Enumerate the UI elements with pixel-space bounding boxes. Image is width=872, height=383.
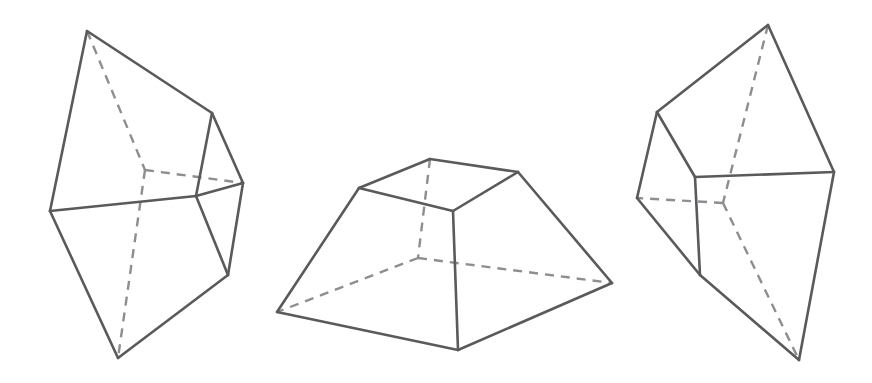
hidden-edge bbox=[277, 258, 418, 312]
solid-edge bbox=[196, 113, 212, 196]
solid-edge bbox=[453, 172, 518, 211]
hidden-edge bbox=[723, 203, 799, 360]
solid-edge bbox=[768, 25, 834, 172]
figure-left-polyhedron bbox=[50, 31, 243, 358]
solid-edge bbox=[430, 159, 518, 172]
solid-edge bbox=[700, 275, 799, 360]
hidden-edge bbox=[87, 31, 145, 170]
solid-edge bbox=[87, 31, 212, 113]
solid-edge bbox=[212, 113, 243, 183]
solid-edge bbox=[50, 211, 118, 358]
solid-edge bbox=[118, 275, 228, 358]
solid-edge bbox=[196, 196, 228, 275]
hidden-edge bbox=[145, 170, 243, 183]
drawing-canvas bbox=[0, 0, 872, 383]
solid-edge bbox=[277, 312, 458, 350]
solid-edge bbox=[518, 172, 612, 283]
hidden-edge bbox=[118, 170, 145, 358]
figure-left-polyhedron-hidden-edges bbox=[87, 31, 243, 358]
solid-edge bbox=[637, 198, 700, 275]
figure-right-polyhedron-solid-edges bbox=[637, 25, 834, 360]
figure-right-polyhedron-hidden-edges bbox=[637, 25, 799, 360]
solid-edge bbox=[50, 196, 196, 211]
solid-edge bbox=[50, 31, 87, 211]
figure-middle-polyhedron-solid-edges bbox=[277, 159, 612, 350]
figure-left-polyhedron-solid-edges bbox=[50, 31, 243, 358]
solid-edge bbox=[453, 211, 458, 350]
solid-edge bbox=[657, 112, 695, 177]
polyhedra-figure-group bbox=[0, 0, 872, 383]
solid-edge bbox=[359, 159, 430, 188]
solid-edge bbox=[799, 172, 834, 360]
solid-edge bbox=[359, 188, 453, 211]
solid-edge bbox=[458, 283, 612, 350]
figure-right-polyhedron bbox=[637, 25, 834, 360]
hidden-edge bbox=[637, 198, 723, 203]
solid-edge bbox=[657, 25, 768, 112]
solid-edge bbox=[637, 112, 657, 198]
hidden-edge bbox=[418, 258, 612, 283]
solid-edge bbox=[196, 183, 243, 196]
solid-edge bbox=[277, 188, 359, 312]
figure-middle-polyhedron bbox=[277, 159, 612, 350]
solid-edge bbox=[695, 177, 700, 275]
solid-edge bbox=[695, 172, 834, 177]
hidden-edge bbox=[418, 159, 430, 258]
solid-edge bbox=[228, 183, 243, 275]
